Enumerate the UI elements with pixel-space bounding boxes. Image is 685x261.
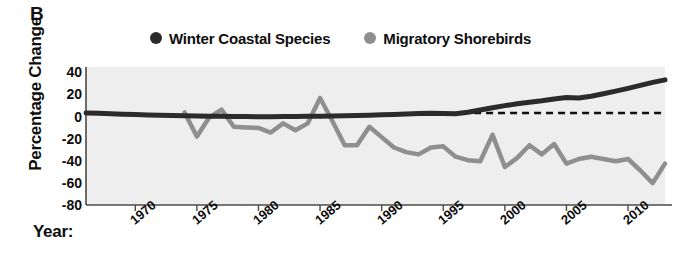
x-tick-2000: 2000: [497, 197, 529, 227]
x-tick-1970: 1970: [127, 197, 159, 227]
x-tick-1980: 1980: [250, 197, 282, 227]
x-axis-tick-labels: 197019751980198519901995200020052010: [0, 0, 685, 261]
x-tick-2005: 2005: [558, 197, 590, 227]
x-tick-1995: 1995: [435, 197, 467, 227]
x-tick-1990: 1990: [374, 197, 406, 227]
x-tick-2010: 2010: [620, 197, 652, 227]
x-tick-1985: 1985: [312, 197, 344, 227]
x-tick-1975: 1975: [189, 197, 221, 227]
x-axis-title: Year:: [33, 222, 73, 242]
figure-panel-b: B Winter Coastal Species Migratory Shore…: [0, 0, 685, 261]
